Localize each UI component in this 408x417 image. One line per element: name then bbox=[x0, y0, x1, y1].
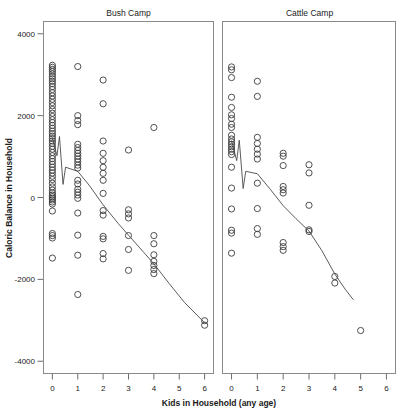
panel-cattle-camp: Cattle Camp 0123456 bbox=[223, 8, 396, 393]
caloric-balance-scatter-chart: Caloric Balance in Household 400020000-2… bbox=[0, 0, 408, 417]
data-point bbox=[254, 226, 260, 232]
x-tick-label: 3 bbox=[126, 384, 131, 393]
panel-title-cattle-camp: Cattle Camp bbox=[286, 8, 334, 18]
data-point bbox=[125, 215, 131, 221]
data-point bbox=[228, 185, 234, 191]
data-point bbox=[202, 322, 208, 328]
y-axis-title: Caloric Balance in Household bbox=[4, 138, 14, 258]
panel-frame-bush-camp bbox=[44, 22, 214, 374]
x-tick-label: 6 bbox=[384, 384, 389, 393]
y-tick-label: -4000 bbox=[15, 357, 36, 366]
panel-bush-camp: Bush Camp 0123456 bbox=[44, 8, 214, 393]
data-point bbox=[75, 177, 81, 183]
data-point bbox=[306, 162, 312, 168]
x-tick-label: 0 bbox=[229, 384, 234, 393]
data-point bbox=[254, 231, 260, 237]
x-axis-cattle-camp: 0123456 bbox=[229, 374, 389, 393]
data-point bbox=[332, 280, 338, 286]
x-tick-label: 1 bbox=[255, 384, 260, 393]
data-point bbox=[125, 246, 131, 252]
data-point bbox=[228, 132, 234, 138]
data-point bbox=[306, 202, 312, 208]
data-point bbox=[49, 255, 55, 261]
data-point bbox=[100, 164, 106, 170]
data-point bbox=[151, 241, 157, 247]
panel-title-bush-camp: Bush Camp bbox=[106, 8, 151, 18]
x-tick-label: 4 bbox=[152, 384, 157, 393]
data-point bbox=[75, 63, 81, 69]
data-point bbox=[228, 74, 234, 80]
data-point bbox=[100, 138, 106, 144]
data-point bbox=[228, 104, 234, 110]
data-point bbox=[100, 170, 106, 176]
data-point bbox=[254, 93, 260, 99]
data-point bbox=[228, 250, 234, 256]
data-point bbox=[49, 180, 55, 186]
data-point bbox=[280, 247, 286, 253]
data-point bbox=[358, 327, 364, 333]
data-point bbox=[151, 252, 157, 258]
data-point bbox=[228, 112, 234, 118]
data-point bbox=[100, 177, 106, 183]
data-point bbox=[100, 77, 106, 83]
x-tick-label: 3 bbox=[307, 384, 312, 393]
x-tick-label: 1 bbox=[76, 384, 81, 393]
x-axis-bush-camp: 0123456 bbox=[50, 374, 207, 393]
trend-line-cattle-camp bbox=[232, 140, 354, 300]
data-point bbox=[228, 115, 234, 121]
data-point bbox=[254, 134, 260, 140]
data-point bbox=[228, 206, 234, 212]
x-tick-label: 4 bbox=[333, 384, 338, 393]
data-point bbox=[100, 150, 106, 156]
y-tick-label: 2000 bbox=[17, 112, 35, 121]
data-point bbox=[280, 244, 286, 250]
data-point bbox=[228, 164, 234, 170]
data-point bbox=[75, 210, 81, 216]
y-tick-label: 4000 bbox=[17, 30, 35, 39]
trend-line-bush-camp bbox=[52, 137, 204, 323]
x-tick-label: 2 bbox=[281, 384, 286, 393]
y-tick-label: -2000 bbox=[15, 275, 36, 284]
data-points-cattle-camp bbox=[228, 64, 363, 334]
data-point bbox=[254, 78, 260, 84]
y-tick-label: 0 bbox=[31, 194, 36, 203]
figure-container: Caloric Balance in Household 400020000-2… bbox=[0, 0, 408, 417]
data-point bbox=[100, 101, 106, 107]
x-axis-title: Kids in Household (any age) bbox=[162, 398, 276, 408]
data-point bbox=[151, 232, 157, 238]
data-point bbox=[280, 162, 286, 168]
x-tick-label: 6 bbox=[202, 384, 207, 393]
x-tick-label: 0 bbox=[50, 384, 55, 393]
x-tick-label: 5 bbox=[358, 384, 363, 393]
data-point bbox=[49, 208, 55, 214]
data-point bbox=[151, 271, 157, 277]
data-point bbox=[254, 140, 260, 146]
data-point bbox=[75, 232, 81, 238]
data-point bbox=[228, 94, 234, 100]
data-point bbox=[100, 190, 106, 196]
panel-frame-cattle-camp bbox=[223, 22, 396, 374]
y-axis: 400020000-2000-4000 bbox=[15, 22, 44, 374]
x-tick-label: 2 bbox=[101, 384, 106, 393]
data-point bbox=[306, 170, 312, 176]
x-tick-label: 5 bbox=[177, 384, 182, 393]
data-point bbox=[254, 180, 260, 186]
data-point bbox=[49, 106, 55, 112]
data-point bbox=[125, 267, 131, 273]
data-point bbox=[151, 124, 157, 130]
data-point bbox=[75, 291, 81, 297]
data-point bbox=[125, 147, 131, 153]
data-point bbox=[100, 212, 106, 218]
data-point bbox=[75, 252, 81, 258]
data-point bbox=[75, 122, 81, 128]
data-point bbox=[100, 158, 106, 164]
data-points-bush-camp bbox=[49, 62, 207, 328]
data-point bbox=[254, 205, 260, 211]
